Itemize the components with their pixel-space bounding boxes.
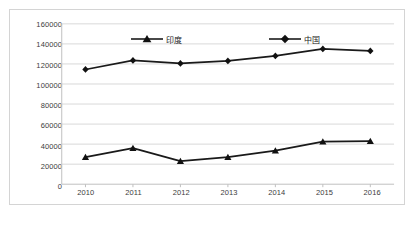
- diamond-marker-icon: [268, 33, 302, 45]
- x-axis-tick-labels: 2010201120122013201420152016: [10, 186, 404, 202]
- legend-item-india[interactable]: 印度: [130, 33, 182, 45]
- chart-legend: 印度 中国: [130, 32, 320, 46]
- triangle-marker-icon: [130, 33, 164, 45]
- x-tick-label: 2015: [316, 188, 333, 197]
- legend-label-india: 印度: [166, 34, 182, 45]
- x-tick-label: 2010: [77, 188, 94, 197]
- x-tick-label: 2011: [125, 188, 142, 197]
- legend-item-china[interactable]: 中国: [268, 33, 320, 45]
- x-tick-label: 2014: [268, 188, 285, 197]
- x-tick-label: 2013: [220, 188, 237, 197]
- plot-area: 1600001400001200001000008000060000400002…: [10, 10, 404, 204]
- x-tick-label: 2012: [173, 188, 190, 197]
- x-tick-label: 2016: [364, 188, 381, 197]
- legend-label-china: 中国: [304, 34, 320, 45]
- chart-container: 1600001400001200001000008000060000400002…: [9, 9, 405, 205]
